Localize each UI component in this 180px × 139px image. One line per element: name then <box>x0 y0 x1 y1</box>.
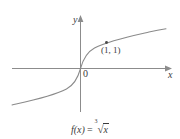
radicand: x <box>103 123 109 135</box>
y-axis-arrowhead <box>78 15 84 22</box>
figure-caption: f(x)=3√x <box>0 123 180 135</box>
curve-group <box>12 29 166 105</box>
caption-equals: = <box>85 124 95 135</box>
radical-index: 3 <box>95 118 98 124</box>
x-axis-label: x <box>168 70 172 80</box>
point-label-1-1: (1, 1) <box>101 46 121 55</box>
figure-cube-root-graph: y x 0 (1, 1) f(x)=3√x <box>0 0 180 139</box>
origin-label: 0 <box>83 69 88 79</box>
cube-root-curve <box>12 29 166 105</box>
y-axis-label: y <box>73 15 77 25</box>
caption-function-name: f(x) <box>71 124 85 135</box>
point-marker-1-1 <box>105 41 108 44</box>
graph-canvas <box>0 0 180 139</box>
cube-root-radical: 3√x <box>95 123 110 135</box>
axes-group <box>12 15 172 112</box>
